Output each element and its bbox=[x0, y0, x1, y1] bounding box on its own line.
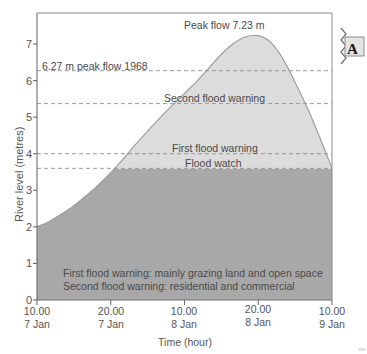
chart-canvas bbox=[0, 0, 367, 354]
y-tick-label-2: 2 bbox=[16, 221, 32, 233]
annotation-second-flood-warning: Second flood warning: residential and co… bbox=[63, 280, 295, 292]
x-tick-label-3: 20.00 8 Jan bbox=[228, 303, 288, 329]
x-tick-date-4: 9 Jan bbox=[302, 318, 362, 331]
annotation-first-flood-warning: First flood warning: mainly grazing land… bbox=[63, 267, 323, 279]
y-axis-ticks bbox=[33, 44, 37, 300]
ref-label-1968-peak: 6.27 m peak flow 1968 bbox=[42, 60, 148, 72]
y-tick-label-6: 6 bbox=[16, 75, 32, 87]
river-level-chart: River level (metres) 7 6 5 4 3 2 1 0 10.… bbox=[0, 0, 367, 354]
x-tick-date-2: 8 Jan bbox=[154, 318, 214, 331]
x-tick-time-2: 10.00 bbox=[154, 305, 214, 318]
ref-label-second-flood-warning: Second flood warning bbox=[164, 92, 265, 104]
x-tick-date-3: 8 Jan bbox=[228, 316, 288, 329]
figure-badge-label: A bbox=[347, 41, 358, 58]
corner-watermark: SRS bbox=[358, 347, 365, 352]
y-tick-label-1: 1 bbox=[16, 257, 32, 269]
y-tick-label-5: 5 bbox=[16, 111, 32, 123]
y-tick-label-3: 3 bbox=[16, 184, 32, 196]
x-tick-date-0: 7 Jan bbox=[7, 318, 67, 331]
x-tick-time-3: 20.00 bbox=[228, 303, 288, 316]
x-tick-time-4: 10.00 bbox=[302, 305, 362, 318]
x-tick-label-2: 10.00 8 Jan bbox=[154, 305, 214, 331]
x-tick-date-1: 7 Jan bbox=[81, 318, 141, 331]
x-axis-title: Time (hour) bbox=[105, 336, 265, 348]
x-tick-label-4: 10.00 9 Jan bbox=[302, 305, 362, 331]
x-tick-label-0: 10.00 7 Jan bbox=[7, 305, 67, 331]
peak-flow-label: Peak flow 7.23 m bbox=[184, 19, 265, 31]
y-tick-label-7: 7 bbox=[16, 38, 32, 50]
y-axis-title: River level (metres) bbox=[13, 127, 25, 222]
ref-label-flood-watch: Flood watch bbox=[185, 157, 242, 169]
y-tick-label-4: 4 bbox=[16, 148, 32, 160]
x-tick-time-0: 10.00 bbox=[7, 305, 67, 318]
x-tick-time-1: 20.00 bbox=[81, 305, 141, 318]
ref-label-first-flood-warning: First flood warning bbox=[172, 142, 258, 154]
x-tick-label-1: 20.00 7 Jan bbox=[81, 305, 141, 331]
